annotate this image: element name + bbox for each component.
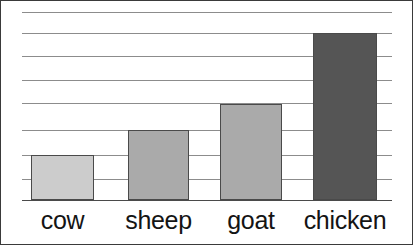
bar-cow[interactable] [31, 155, 94, 200]
bar-goat[interactable] [220, 104, 282, 200]
x-tick-label-goat: goat [206, 204, 296, 236]
x-tick-label-cow: cow [21, 204, 104, 236]
plot-area: cow sheep goat chicken [0, 0, 413, 245]
x-tick-label-sheep: sheep [113, 204, 204, 236]
x-tick-label-chicken: chicken [293, 204, 397, 236]
bar-chart-figure: cow sheep goat chicken [0, 0, 413, 245]
gridline-1 [22, 12, 392, 13]
bar-sheep[interactable] [128, 130, 189, 200]
bar-chicken[interactable] [313, 33, 377, 200]
x-axis-baseline [22, 200, 392, 201]
